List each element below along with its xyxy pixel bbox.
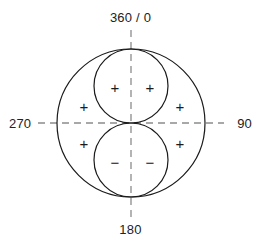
- marker-inner-lower-right: −: [146, 154, 155, 171]
- inner-lower-circle: [94, 123, 168, 197]
- polar-polarity-diagram: + + + + + + − − 360 / 0 90 180 270: [0, 0, 261, 251]
- diagram-canvas: + + + + + + − −: [0, 0, 261, 251]
- marker-inner-lower-left: −: [111, 154, 120, 171]
- polarity-markers: + + + + + + − −: [80, 79, 185, 171]
- marker-outer-left-upper: +: [80, 98, 89, 115]
- marker-outer-left-lower: +: [80, 135, 89, 152]
- axis-label-top-360-0: 360 / 0: [0, 10, 261, 25]
- marker-inner-upper-left: +: [111, 79, 120, 96]
- marker-outer-right-upper: +: [176, 98, 185, 115]
- marker-outer-right-lower: +: [176, 135, 185, 152]
- axis-label-bottom-180: 180: [0, 222, 261, 237]
- axis-label-left-270: 270: [9, 116, 31, 131]
- axis-label-right-90: 90: [237, 116, 252, 131]
- marker-inner-upper-right: +: [146, 79, 155, 96]
